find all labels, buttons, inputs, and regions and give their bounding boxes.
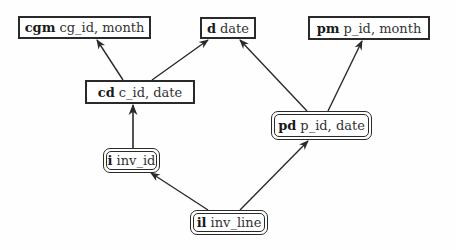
node-pd: pd p_id, date	[271, 111, 372, 140]
node-cd-attrs: c_id, date	[119, 86, 183, 99]
node-pm-attrs: p_id, month	[344, 22, 422, 35]
edge-il-to-i	[151, 173, 208, 210]
node-cd: cd c_id, date	[85, 80, 195, 104]
edge-pd-to-pm	[328, 41, 362, 111]
edge-pd-to-d	[240, 40, 307, 111]
node-pd-abbr: pd	[278, 119, 296, 132]
edge-cd-to-d	[152, 40, 208, 80]
edge-il-to-pd	[240, 141, 308, 210]
edge-cd-to-cgm	[97, 40, 123, 80]
node-i: i inv_id	[103, 148, 160, 173]
node-pm: pm p_id, month	[308, 16, 430, 40]
node-i-inner: i inv_id	[106, 151, 157, 170]
node-il-attrs: inv_line	[211, 216, 262, 229]
node-il-inner: il inv_line	[193, 213, 265, 232]
diagram-canvas: cgm cg_id, month d date pm p_id, month c…	[0, 0, 456, 250]
node-pd-inner: pd p_id, date	[274, 114, 369, 137]
node-i-abbr: i	[108, 154, 113, 167]
node-d-abbr: d	[207, 22, 216, 35]
node-cgm: cgm cg_id, month	[18, 16, 151, 39]
node-il-abbr: il	[197, 216, 207, 229]
node-pm-abbr: pm	[317, 22, 340, 35]
node-i-attrs: inv_id	[117, 154, 156, 167]
node-cd-abbr: cd	[98, 86, 115, 99]
node-pd-attrs: p_id, date	[300, 119, 365, 132]
node-il: il inv_line	[190, 210, 268, 235]
node-d: d date	[200, 17, 256, 39]
node-cgm-attrs: cg_id, month	[59, 21, 144, 34]
node-cgm-abbr: cgm	[25, 21, 56, 34]
node-d-attrs: date	[220, 22, 249, 35]
